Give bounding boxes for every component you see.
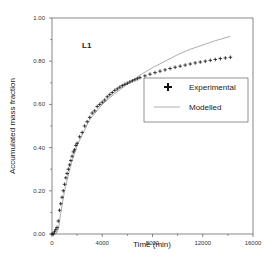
plus-marker <box>203 59 207 63</box>
plot-frame <box>52 18 253 234</box>
y-axis-ticks: 0.000.200.400.600.801.00 <box>33 15 52 237</box>
plus-marker <box>108 93 112 97</box>
modelled-series-line <box>52 36 230 234</box>
plus-marker <box>158 69 162 73</box>
plus-marker <box>153 71 157 75</box>
plus-marker <box>80 131 84 135</box>
plus-marker <box>229 56 233 60</box>
y-tick-label: 0.40 <box>33 145 45 151</box>
y-tick-label: 0.20 <box>33 188 45 194</box>
plus-marker <box>105 95 109 99</box>
plus-marker <box>148 72 152 76</box>
plus-marker <box>163 68 167 72</box>
plus-marker <box>224 56 228 60</box>
y-tick-label: 0.60 <box>33 101 45 107</box>
x-tick-label: 4000 <box>96 240 110 246</box>
plot-area-border <box>52 18 253 234</box>
plus-marker <box>183 63 187 67</box>
plus-marker <box>90 111 94 115</box>
chart: 0.000.200.400.600.801.00 040008000120001… <box>0 0 277 264</box>
y-tick-label: 0.80 <box>33 58 45 64</box>
plus-marker <box>143 74 147 78</box>
plus-marker <box>193 61 197 65</box>
plus-marker <box>95 105 99 109</box>
x-axis-label: Time (min) <box>133 240 171 249</box>
plus-marker <box>188 62 192 66</box>
legend: Experimental Modelled <box>144 78 248 122</box>
modelled-line <box>52 36 230 234</box>
plus-marker <box>214 58 218 62</box>
plus-marker <box>111 91 115 95</box>
y-axis-label: Accumulated mass fraction <box>8 78 17 174</box>
plus-marker <box>85 120 89 124</box>
plus-marker <box>64 176 68 180</box>
plus-marker <box>168 67 172 71</box>
x-tick-label: 16000 <box>245 240 262 246</box>
x-tick-label: 12000 <box>194 240 211 246</box>
plus-marker <box>173 65 177 69</box>
plus-marker <box>208 59 212 63</box>
plus-marker <box>68 163 72 167</box>
plus-marker <box>219 57 223 61</box>
x-tick-label: 0 <box>50 240 54 246</box>
plus-marker <box>178 64 182 68</box>
legend-experimental-label: Experimental <box>189 83 236 92</box>
y-tick-label: 1.00 <box>33 15 45 21</box>
legend-modelled-label: Modelled <box>189 103 221 112</box>
panel-label: L1 <box>82 41 92 50</box>
plus-marker <box>198 60 202 64</box>
plus-marker <box>88 116 92 120</box>
y-tick-label: 0.00 <box>33 231 45 237</box>
